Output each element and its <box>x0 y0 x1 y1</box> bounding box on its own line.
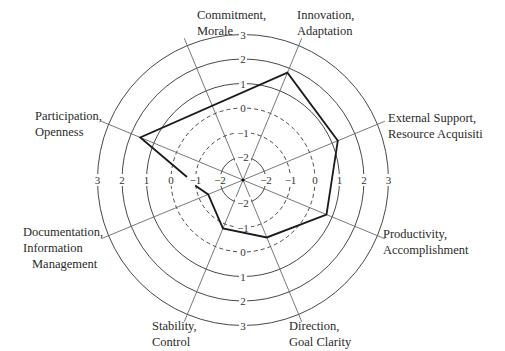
tick-label: −1 <box>190 174 202 186</box>
axis-label-external-support: External Support,Resource Acquisiti <box>388 110 483 142</box>
tick-label: −2 <box>237 151 249 163</box>
tick-label: 1 <box>337 174 343 186</box>
tick-label: 2 <box>240 53 246 65</box>
tick-label: −2 <box>214 174 226 186</box>
tick-label: 3 <box>240 320 246 332</box>
center-dot <box>241 178 244 181</box>
tick-label: 0 <box>240 246 246 258</box>
tick-label: −1 <box>237 127 249 139</box>
tick-label: −2 <box>260 174 272 186</box>
tick-labels: −2−2−2−2−1−1−1−10000111122223333 <box>94 29 393 332</box>
axis-label-commitment: Commitment,Morale <box>197 7 266 39</box>
axis-label-documentation: Documentation,InformationManagement <box>23 224 103 272</box>
tick-label: 1 <box>240 78 246 90</box>
axis-label-stability: Stability,Control <box>152 318 197 350</box>
tick-label: 0 <box>168 174 174 186</box>
tick-label: −1 <box>285 174 297 186</box>
axis-label-productivity: Productivity,Accomplishment <box>383 226 468 258</box>
tick-label: −2 <box>237 197 249 209</box>
tick-label: 2 <box>119 174 125 186</box>
tick-label: 0 <box>312 174 318 186</box>
tick-label: 1 <box>144 174 150 186</box>
axis-label-innovation: Innovation,Adaptation <box>297 7 354 39</box>
axis-label-participation: Participation,Openness <box>35 108 102 140</box>
axis-label-direction: Direction,Goal Clarity <box>289 318 351 350</box>
tick-label: 1 <box>240 271 246 283</box>
tick-label: 0 <box>240 102 246 114</box>
radar-chart: −2−2−2−2−1−1−1−10000111122223333 <box>0 0 505 351</box>
tick-label: 3 <box>386 174 392 186</box>
tick-label: 3 <box>95 174 101 186</box>
tick-label: 2 <box>361 174 367 186</box>
tick-label: 2 <box>240 295 246 307</box>
